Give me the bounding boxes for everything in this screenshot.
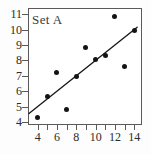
x-axis-tick-labels: 468101214 <box>0 131 151 149</box>
chart-title: Set A <box>32 12 63 28</box>
y-axis-tick-label: 5 <box>2 101 22 113</box>
y-axis-tick-label: 8 <box>2 54 22 66</box>
y-axis-tick-mark <box>22 45 28 46</box>
x-axis-tick-mark <box>115 125 116 130</box>
y-axis-tick-label: 4 <box>2 116 22 128</box>
y-axis-tick-mark <box>22 60 28 61</box>
y-axis-tick-mark <box>22 91 28 92</box>
x-axis-tick-mark <box>125 125 126 130</box>
y-axis-tick-label: 11 <box>2 8 22 20</box>
x-axis-tick-mark <box>57 125 58 130</box>
x-axis-tick-mark <box>134 125 135 130</box>
y-axis-tick-label: 10 <box>2 24 22 36</box>
y-axis-tick-mark <box>22 107 28 108</box>
x-axis-tick-mark <box>67 125 68 130</box>
y-axis-tick-mark <box>22 122 28 123</box>
y-axis-tick-label: 7 <box>2 70 22 82</box>
y-axis-tick-mark <box>22 76 28 77</box>
x-axis-tick-mark <box>96 125 97 130</box>
y-axis-tick-label: 9 <box>2 39 22 51</box>
x-axis-tick-mark <box>86 125 87 130</box>
scatter-chart: Set A 4567891011 468101214 <box>0 0 151 154</box>
y-axis-tick-label: 6 <box>2 85 22 97</box>
y-axis-tick-mark <box>22 14 28 15</box>
x-axis-tick-mark <box>105 125 106 130</box>
y-axis-tick-mark <box>22 30 28 31</box>
x-axis-tick-mark <box>38 125 39 130</box>
x-axis-tick-label: 14 <box>123 131 145 143</box>
x-axis-tick-mark <box>47 125 48 130</box>
x-axis-tick-mark <box>76 125 77 130</box>
